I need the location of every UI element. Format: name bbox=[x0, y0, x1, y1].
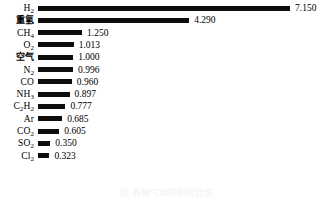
bar-value-label: 0.350 bbox=[55, 137, 76, 149]
bar bbox=[38, 42, 74, 47]
bar bbox=[38, 104, 65, 109]
bar bbox=[38, 141, 50, 146]
bar-row: 空气1.000 bbox=[0, 51, 333, 63]
bar-row: CH41.250 bbox=[0, 27, 333, 39]
bar bbox=[38, 67, 73, 72]
bar-value-label: 1.013 bbox=[79, 39, 100, 51]
bar bbox=[38, 6, 290, 11]
category-label: O2 bbox=[0, 39, 34, 51]
figure-caption: 图 各种气体的相对数值 bbox=[0, 186, 333, 200]
chart-plot-area: H27.150重氢4.290CH41.250O21.013空气1.000N20.… bbox=[0, 0, 333, 180]
bar-chart-figure: H27.150重氢4.290CH41.250O21.013空气1.000N20.… bbox=[0, 0, 333, 200]
bar-row: Ar0.685 bbox=[0, 113, 333, 125]
category-label: Ar bbox=[0, 113, 34, 125]
bar bbox=[38, 55, 73, 60]
bar bbox=[38, 129, 59, 134]
bar-row: Cl20.323 bbox=[0, 150, 333, 162]
bar-row: N20.996 bbox=[0, 64, 333, 76]
category-label: 空气 bbox=[0, 51, 34, 63]
bar bbox=[38, 116, 62, 121]
bar bbox=[38, 79, 72, 84]
bar-value-label: 7.150 bbox=[295, 2, 316, 14]
bar-value-label: 4.290 bbox=[194, 14, 215, 26]
category-label: N2 bbox=[0, 64, 34, 76]
bar-row: NH30.897 bbox=[0, 88, 333, 100]
bar-row: CO20.605 bbox=[0, 125, 333, 137]
category-label: Cl2 bbox=[0, 150, 34, 162]
category-label: 重氢 bbox=[0, 14, 34, 26]
bar bbox=[38, 153, 49, 158]
category-label: NH3 bbox=[0, 88, 34, 100]
bar-value-label: 0.323 bbox=[54, 150, 75, 162]
bar-row: CO0.960 bbox=[0, 76, 333, 88]
category-label: CH4 bbox=[0, 27, 34, 39]
bar-row: H27.150 bbox=[0, 2, 333, 14]
bar-value-label: 0.897 bbox=[75, 88, 96, 100]
category-label: CO2 bbox=[0, 125, 34, 137]
category-label: SO2 bbox=[0, 137, 34, 149]
bar-value-label: 1.250 bbox=[87, 27, 108, 39]
bar-row: SO20.350 bbox=[0, 137, 333, 149]
bar-value-label: 0.777 bbox=[70, 100, 91, 112]
bar bbox=[38, 30, 82, 35]
bar-value-label: 0.996 bbox=[78, 64, 99, 76]
category-label: CO bbox=[0, 76, 34, 88]
bar bbox=[38, 18, 189, 23]
bar-row: C2H20.777 bbox=[0, 100, 333, 112]
bar-value-label: 0.685 bbox=[67, 113, 88, 125]
category-label: H2 bbox=[0, 2, 34, 14]
bar bbox=[38, 92, 70, 97]
bar-row: 重氢4.290 bbox=[0, 14, 333, 26]
category-label: C2H2 bbox=[0, 100, 34, 112]
bar-value-label: 1.000 bbox=[78, 51, 99, 63]
bar-row: O21.013 bbox=[0, 39, 333, 51]
bar-value-label: 0.960 bbox=[77, 76, 98, 88]
bar-value-label: 0.605 bbox=[64, 125, 85, 137]
